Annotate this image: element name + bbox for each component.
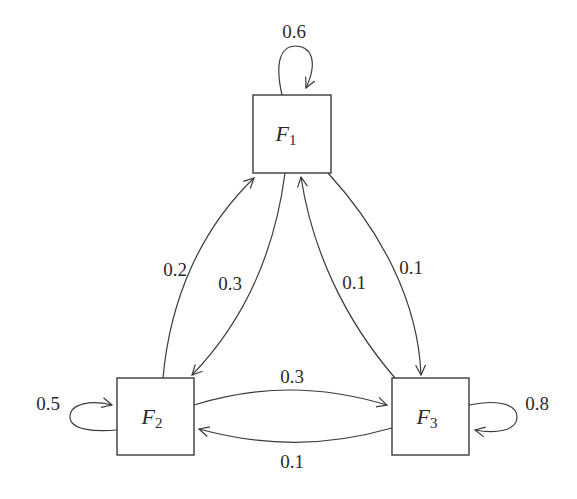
edge-label-f2-f3: 0.3 [280, 366, 304, 387]
edge-label-f3-f1: 0.1 [342, 272, 366, 293]
edge-label-f3-f2: 0.1 [280, 451, 304, 472]
edge-f3-self: 0.8 [469, 393, 549, 432]
edge-f3-f2: 0.1 [199, 428, 392, 472]
node-f1: F1 [253, 95, 331, 173]
node-f3: F3 [392, 378, 469, 455]
node-f2: F2 [117, 378, 194, 455]
edge-label-f2-f2: 0.5 [36, 393, 60, 414]
state-diagram: 0.6 0.5 0.8 0.2 0.3 0.1 0.1 0.3 0.1 [0, 0, 577, 499]
edge-f2-self: 0.5 [36, 393, 117, 431]
edge-label-f1-f1: 0.6 [282, 21, 306, 42]
edge-f1-self: 0.6 [279, 21, 312, 95]
edge-f3-f1: 0.1 [301, 177, 395, 378]
edge-label-f2-f1: 0.2 [163, 259, 187, 280]
edge-f1-f2: 0.3 [192, 173, 285, 375]
edge-label-f1-f3: 0.1 [399, 257, 423, 278]
edge-f2-f3: 0.3 [194, 366, 387, 405]
edge-label-f3-f3: 0.8 [525, 393, 549, 414]
edge-label-f1-f2: 0.3 [218, 273, 242, 294]
